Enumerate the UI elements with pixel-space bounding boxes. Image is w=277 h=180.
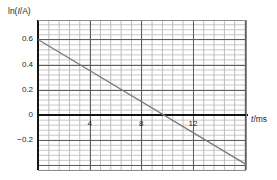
data-line	[38, 39, 246, 164]
graph-figure: ln(I/A) t/ms 0.60.40.20−0.24812	[0, 0, 277, 180]
data-line-layer	[0, 0, 277, 180]
